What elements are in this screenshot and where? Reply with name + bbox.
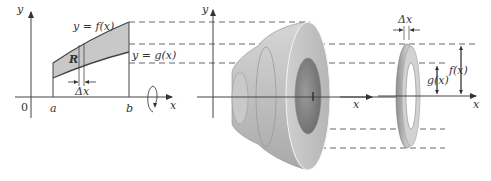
delta-x-label: Δx xyxy=(74,85,90,98)
right-x-axis-label: x xyxy=(473,98,480,111)
region-label: R xyxy=(68,53,78,66)
right-panel: x Δx g(x) f(x) x xyxy=(340,13,480,148)
y-axis-label: y xyxy=(16,3,24,16)
outer-radius-label: f(x) xyxy=(448,64,468,77)
solid-hole xyxy=(295,58,321,134)
washer-method-figure: y x 0 a b y = f(x) y = g(x) R Δx y xyxy=(0,0,491,181)
lower-curve-label: y = g(x) xyxy=(131,49,176,62)
middle-panel: y x xyxy=(168,3,400,170)
rotation-arrow-icon xyxy=(148,86,157,112)
upper-curve-label: y = f(x) xyxy=(72,20,114,33)
washer-delta-x-label: Δx xyxy=(397,13,413,26)
middle-x-label-visible: x xyxy=(353,98,360,111)
b-label: b xyxy=(126,102,133,115)
left-panel: y x 0 a b y = f(x) y = g(x) R Δx xyxy=(15,3,177,118)
inner-radius-label: g(x) xyxy=(427,74,449,87)
middle-y-axis-label: y xyxy=(201,3,209,16)
origin-label: 0 xyxy=(21,101,28,114)
a-label: a xyxy=(50,102,57,115)
